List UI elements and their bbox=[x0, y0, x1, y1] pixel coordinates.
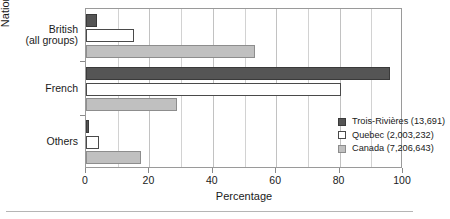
y-axis-category-label-line: French bbox=[45, 83, 78, 94]
legend-item-label: Canada (7,206,643) bbox=[352, 142, 434, 156]
bar bbox=[86, 120, 89, 133]
x-axis-tick-label: 40 bbox=[192, 174, 232, 186]
y-axis-category-label-line: (all groups) bbox=[25, 35, 78, 46]
x-axis-tick-mark bbox=[148, 168, 149, 173]
x-axis-tick-labels: 020406080100 bbox=[0, 174, 419, 188]
x-axis-tick-label: 0 bbox=[65, 174, 105, 186]
legend-item: Quebec (2,003,232) bbox=[338, 129, 450, 143]
bar bbox=[86, 14, 97, 27]
bar bbox=[86, 98, 177, 111]
bar bbox=[86, 136, 99, 149]
y-axis-category-label-line: British bbox=[25, 24, 78, 35]
x-axis-tick-label: 100 bbox=[382, 174, 422, 186]
y-axis-category-label: Others bbox=[46, 136, 78, 147]
x-axis-tick-mark bbox=[402, 168, 403, 173]
bar bbox=[86, 67, 390, 80]
x-axis-tick-mark bbox=[275, 168, 276, 173]
plot-area: Trois-Rivières (13,691)Quebec (2,003,232… bbox=[85, 8, 402, 168]
bar bbox=[86, 151, 141, 164]
bar bbox=[86, 45, 255, 58]
y-axis-category-label-line: Others bbox=[46, 136, 78, 147]
x-axis-tick-label: 80 bbox=[319, 174, 359, 186]
x-axis-tick-mark bbox=[212, 168, 213, 173]
bar bbox=[86, 83, 341, 96]
x-axis-tick-label: 20 bbox=[128, 174, 168, 186]
legend-item-label: Trois-Rivières (13,691) bbox=[352, 115, 445, 129]
x-axis-tick-mark bbox=[339, 168, 340, 173]
x-axis-tick-mark bbox=[85, 168, 86, 173]
chart-legend: Trois-Rivières (13,691)Quebec (2,003,232… bbox=[338, 115, 450, 156]
x-axis-title: Percentage bbox=[85, 190, 403, 202]
bottom-divider bbox=[6, 211, 413, 212]
y-axis-category-label: British(all groups) bbox=[25, 24, 78, 46]
light-gray-swatch bbox=[338, 145, 346, 153]
dark-gray-swatch bbox=[338, 118, 346, 126]
legend-item: Canada (7,206,643) bbox=[338, 142, 450, 156]
bar bbox=[86, 29, 134, 42]
white-swatch bbox=[338, 131, 346, 139]
x-axis-tick-label: 60 bbox=[255, 174, 295, 186]
legend-item: Trois-Rivières (13,691) bbox=[338, 115, 450, 129]
y-axis-category-label: French bbox=[45, 83, 78, 94]
legend-item-label: Quebec (2,003,232) bbox=[352, 129, 434, 143]
